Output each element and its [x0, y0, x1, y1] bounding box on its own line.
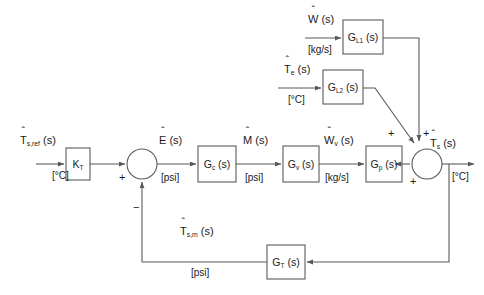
sign-error-input: + [119, 172, 125, 183]
signal-controller-out-unit: [psi] [245, 173, 263, 183]
signal-controller-out-label: ̂M (s) [243, 135, 268, 146]
signal-disturbance-flow-unit: [kg/s] [308, 45, 332, 55]
block-label-gl1: GL1 (s) [343, 20, 383, 54]
block-label-gt: GT (s) [267, 245, 305, 279]
signal-disturbance-temp-unit: [°C] [288, 95, 305, 105]
signal-error-label: ̂E (s) [159, 135, 182, 146]
signal-error-unit: [psi] [161, 173, 179, 183]
block-label-gp: Gp (s) [366, 146, 402, 182]
block-label-gl2: GL2 (s) [323, 70, 363, 104]
summing-junction-error [127, 149, 157, 179]
signal-output-unit: [°C] [452, 172, 469, 182]
block-diagram-canvas: ̂Ts,ref (s) [°C] KT + − ̂E (s) [psi] Gc … [0, 0, 484, 295]
sign-output-load1: + [423, 128, 429, 139]
block-label-gv: Gv (s) [283, 146, 319, 182]
sign-output-plant: + [410, 176, 416, 187]
sign-output-load2: + [388, 128, 394, 139]
block-label-kt: KT [66, 148, 90, 180]
sign-error-feedback: − [133, 202, 139, 213]
signal-reference-label: ̂Ts,ref (s) [20, 135, 56, 146]
signal-disturbance-flow-label: ̂W (s) [308, 14, 334, 25]
signal-valve-out-label: ̂Wv (s) [324, 135, 354, 146]
summing-junction-output [412, 149, 442, 179]
block-label-gc: Gc (s) [198, 146, 236, 182]
signal-valve-out-unit: [kg/s] [325, 173, 349, 183]
signal-disturbance-temp-label: ̂Te (s) [284, 64, 310, 75]
signal-measured-unit: [psi] [191, 268, 209, 278]
signal-output-label: ̂Ts (s) [430, 138, 456, 149]
signal-measured-label: ̂Ts,m (s) [180, 226, 214, 237]
